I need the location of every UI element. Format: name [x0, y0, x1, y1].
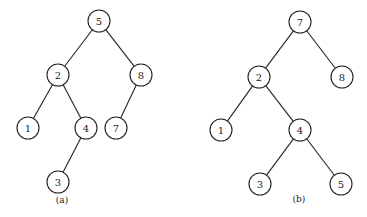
node-label: 4 — [297, 125, 303, 136]
tree-edge — [307, 139, 335, 175]
nodes-layer: 52814737281435 — [17, 10, 353, 195]
node-label: 3 — [257, 179, 263, 190]
binary-trees-diagram: 52814737281435 (a)(b) — [0, 0, 367, 217]
tree-node-4: 4 — [75, 117, 97, 139]
tree-node-8: 8 — [331, 66, 353, 88]
node-label: 1 — [25, 123, 31, 134]
tree-edge — [65, 30, 93, 66]
tree-node-7: 7 — [289, 11, 311, 33]
tree-edge — [267, 139, 294, 175]
tree-edge — [227, 86, 252, 121]
node-label: 4 — [83, 123, 89, 134]
node-label: 7 — [297, 17, 303, 28]
tree-caption: (b) — [293, 194, 306, 204]
tree-edge — [63, 138, 81, 172]
tree-node-2: 2 — [47, 64, 69, 86]
node-label: 8 — [138, 70, 144, 81]
edges-layer — [33, 30, 335, 176]
tree-node-5: 5 — [88, 10, 110, 32]
tree-edge — [33, 85, 52, 119]
tree-edge — [121, 85, 137, 118]
node-label: 2 — [256, 72, 262, 83]
node-label: 7 — [113, 123, 119, 134]
tree-node-1: 1 — [210, 119, 232, 141]
tree-node-8: 8 — [130, 64, 152, 86]
node-label: 2 — [55, 70, 61, 81]
tree-edge — [307, 31, 336, 69]
tree-edge — [266, 86, 294, 122]
tree-node-2: 2 — [248, 66, 270, 88]
tree-node-3: 3 — [47, 171, 69, 193]
node-label: 5 — [96, 16, 102, 27]
tree-node-3: 3 — [249, 173, 271, 195]
captions-layer: (a)(b) — [56, 194, 306, 205]
node-label: 8 — [339, 72, 345, 83]
tree-node-7: 7 — [105, 117, 127, 139]
tree-edge — [266, 31, 294, 68]
tree-caption: (a) — [56, 195, 68, 205]
tree-node-1: 1 — [17, 117, 39, 139]
tree-edge — [63, 85, 81, 119]
node-label: 1 — [218, 125, 224, 136]
tree-node-5: 5 — [330, 173, 352, 195]
node-label: 5 — [338, 179, 344, 190]
node-label: 3 — [55, 177, 61, 188]
tree-node-4: 4 — [289, 119, 311, 141]
tree-edge — [106, 30, 134, 67]
